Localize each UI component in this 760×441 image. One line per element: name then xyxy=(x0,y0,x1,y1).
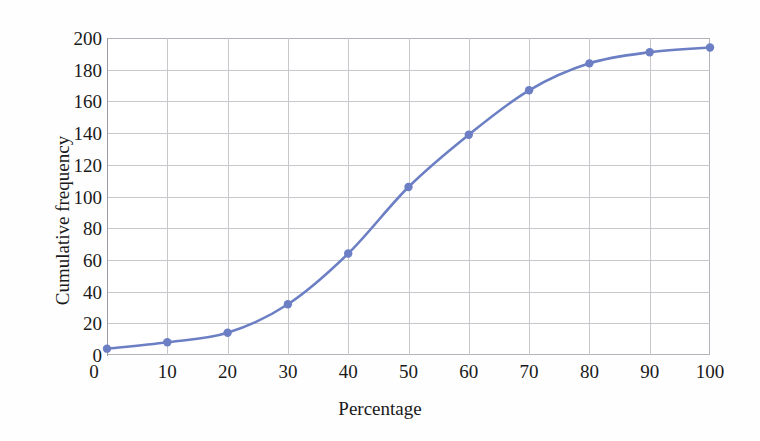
x-tick-label: 90 xyxy=(620,362,680,381)
x-tick-label: 70 xyxy=(499,362,559,381)
gridline-vertical xyxy=(589,38,590,355)
chart-page: 020406080100120140160180200 010203040506… xyxy=(0,0,760,441)
gridline-vertical xyxy=(529,38,530,355)
x-tick-label: 50 xyxy=(379,362,439,381)
gridline-vertical xyxy=(650,38,651,355)
gridline-vertical xyxy=(469,38,470,355)
x-tick-label: 80 xyxy=(559,362,619,381)
x-axis-title: Percentage xyxy=(0,398,760,420)
y-tick-label: 20 xyxy=(56,314,102,333)
y-axis-spine xyxy=(107,38,108,356)
x-tick-label: 20 xyxy=(198,362,258,381)
y-tick-label: 80 xyxy=(56,219,102,238)
y-tick-label: 120 xyxy=(56,155,102,174)
x-tick-label: 10 xyxy=(137,362,197,381)
y-tick-label: 140 xyxy=(56,124,102,143)
plot-area xyxy=(107,38,710,355)
gridline-vertical xyxy=(348,38,349,355)
gridline-vertical xyxy=(167,38,168,355)
gridline-vertical xyxy=(288,38,289,355)
y-tick-label: 60 xyxy=(56,250,102,269)
y-tick-label: 200 xyxy=(56,29,102,48)
x-tick-label: 30 xyxy=(258,362,318,381)
x-tick-label: 60 xyxy=(439,362,499,381)
y-tick-label: 180 xyxy=(56,60,102,79)
gridline-vertical xyxy=(409,38,410,355)
y-tick-label: 40 xyxy=(56,282,102,301)
y-tick-label: 160 xyxy=(56,92,102,111)
x-tick-label: 0 xyxy=(64,362,124,381)
x-tick-label: 40 xyxy=(318,362,378,381)
y-tick-label: 100 xyxy=(56,187,102,206)
x-tick-label: 100 xyxy=(680,362,740,381)
x-axis-tick-labels: 0102030405060708090100 xyxy=(0,362,760,392)
gridline-vertical xyxy=(228,38,229,355)
